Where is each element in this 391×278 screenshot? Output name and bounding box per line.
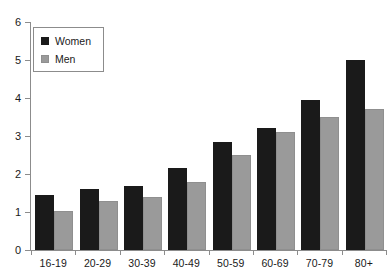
x-tick-mark bbox=[75, 250, 76, 255]
bar-men-16-19 bbox=[54, 211, 73, 250]
y-tick-mark bbox=[25, 22, 30, 23]
y-tick-label: 1 bbox=[5, 207, 21, 218]
bar-men-50-59 bbox=[232, 155, 251, 250]
y-tick-mark bbox=[25, 60, 30, 61]
bar-women-20-29 bbox=[80, 189, 99, 250]
y-tick-mark bbox=[25, 250, 30, 251]
y-tick-label: 5 bbox=[5, 55, 21, 66]
bar-women-50-59 bbox=[213, 142, 232, 250]
bar-men-30-39 bbox=[143, 197, 162, 250]
x-tick-mark bbox=[253, 250, 254, 255]
x-tick-mark bbox=[209, 250, 210, 255]
x-label-80+: 80+ bbox=[342, 258, 386, 269]
legend-label-women: Women bbox=[55, 36, 91, 47]
y-tick-mark bbox=[25, 98, 30, 99]
x-tick-mark bbox=[31, 250, 32, 255]
y-tick-mark bbox=[25, 212, 30, 213]
legend-swatch-women-icon bbox=[41, 37, 49, 45]
bar-women-30-39 bbox=[124, 186, 143, 250]
x-label-70-79: 70-79 bbox=[297, 258, 341, 269]
x-tick-mark bbox=[120, 250, 121, 255]
chart-legend: Women Men bbox=[33, 27, 104, 72]
legend-entry-women: Women bbox=[41, 36, 91, 47]
y-tick-label: 0 bbox=[5, 245, 21, 256]
x-tick-mark bbox=[164, 250, 165, 255]
bar-women-40-49 bbox=[168, 168, 187, 250]
bar-women-16-19 bbox=[35, 195, 54, 250]
y-tick-label: 6 bbox=[5, 17, 21, 28]
x-tick-mark bbox=[297, 250, 298, 255]
bar-chart: 0123456 16-1920-2930-3940-4950-5960-6970… bbox=[0, 0, 391, 278]
bar-women-70-79 bbox=[301, 100, 320, 250]
bar-women-60-69 bbox=[257, 128, 276, 250]
x-label-60-69: 60-69 bbox=[253, 258, 297, 269]
bar-men-70-79 bbox=[320, 117, 339, 250]
legend-swatch-men-icon bbox=[41, 55, 49, 63]
y-tick-label: 2 bbox=[5, 169, 21, 180]
legend-label-men: Men bbox=[55, 54, 75, 65]
y-tick-label: 3 bbox=[5, 131, 21, 142]
bar-women-80+ bbox=[346, 60, 365, 250]
x-label-20-29: 20-29 bbox=[75, 258, 119, 269]
bar-men-60-69 bbox=[276, 132, 295, 250]
legend-entry-men: Men bbox=[41, 54, 75, 65]
x-label-16-19: 16-19 bbox=[31, 258, 75, 269]
x-axis-line bbox=[30, 250, 386, 251]
x-label-50-59: 50-59 bbox=[209, 258, 253, 269]
y-tick-mark bbox=[25, 174, 30, 175]
y-tick-mark bbox=[25, 136, 30, 137]
bar-men-80+ bbox=[365, 109, 384, 250]
x-label-40-49: 40-49 bbox=[164, 258, 208, 269]
bar-men-40-49 bbox=[187, 182, 206, 250]
y-tick-label: 4 bbox=[5, 93, 21, 104]
bar-men-20-29 bbox=[99, 201, 118, 250]
x-label-30-39: 30-39 bbox=[120, 258, 164, 269]
x-tick-mark bbox=[342, 250, 343, 255]
x-tick-mark bbox=[386, 250, 387, 255]
